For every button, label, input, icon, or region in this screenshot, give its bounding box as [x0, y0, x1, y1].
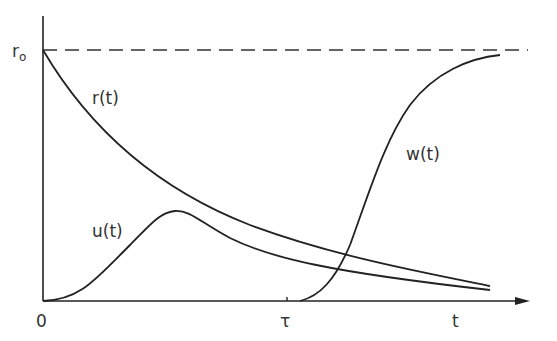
r-series-label: r(t) [92, 88, 119, 108]
x-axis-arrow-icon [515, 297, 530, 305]
chart: ro 0 τ t r(t) u(t) w(t) [0, 0, 557, 341]
series-w-curve [300, 55, 500, 301]
chart-svg: ro 0 τ t r(t) u(t) w(t) [0, 0, 557, 341]
origin-label: 0 [36, 311, 47, 331]
tau-label: τ [280, 311, 290, 331]
u-series-label: u(t) [92, 221, 123, 241]
r0-label: ro [12, 41, 26, 64]
series-r-curve [43, 50, 490, 286]
t-axis-label: t [452, 311, 459, 331]
w-series-label: w(t) [406, 144, 440, 164]
